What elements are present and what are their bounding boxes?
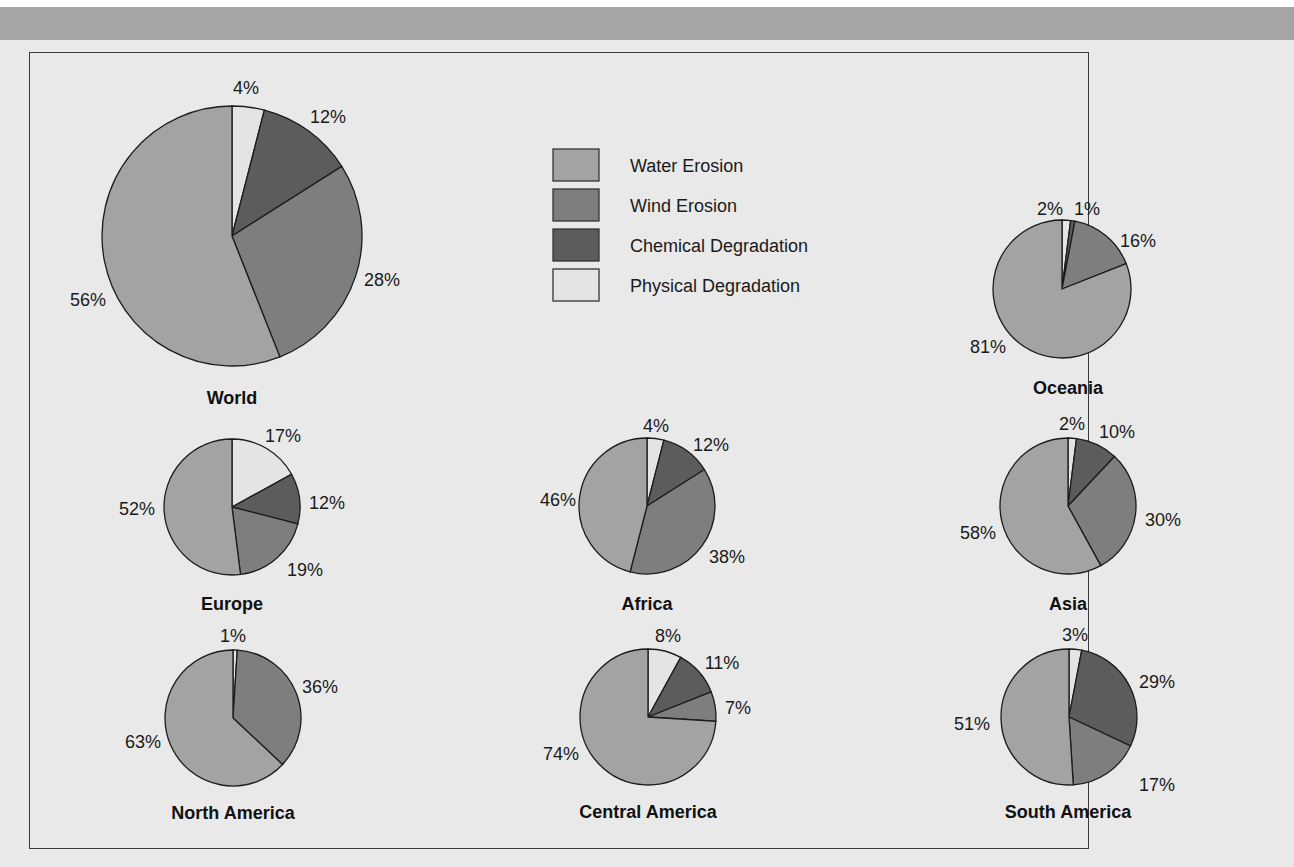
percent-label: 1% (1074, 199, 1100, 219)
pie-title: Europe (201, 594, 263, 614)
percent-label: 36% (302, 677, 338, 697)
percent-label: 38% (709, 547, 745, 567)
pie-title: Oceania (1033, 378, 1104, 398)
percent-label: 16% (1120, 231, 1156, 251)
legend-label: Physical Degradation (630, 276, 800, 296)
pie-charts-figure: 4%12%28%56%World2%1%16%81%Oceania17%12%1… (0, 0, 1294, 867)
pie-europe: 17%12%19%52%Europe (119, 426, 345, 614)
percent-label: 2% (1059, 414, 1085, 434)
pie-title: Asia (1049, 594, 1088, 614)
percent-label: 51% (954, 714, 990, 734)
percent-label: 4% (233, 78, 259, 98)
legend-swatch-physical-degradation (553, 269, 599, 301)
legend-swatch-wind-erosion (553, 189, 599, 221)
pie-north-america: 1%36%63%North America (125, 626, 338, 823)
percent-label: 12% (310, 107, 346, 127)
pie-central-america: 8%11%7%74%Central America (543, 626, 751, 822)
percent-label: 56% (70, 290, 106, 310)
percent-label: 3% (1062, 625, 1088, 645)
legend-label: Chemical Degradation (630, 236, 808, 256)
legend-swatch-water-erosion (553, 149, 599, 181)
slice-water-erosion (1001, 649, 1073, 785)
percent-label: 46% (540, 490, 576, 510)
percent-label: 30% (1145, 510, 1181, 530)
percent-label: 8% (655, 626, 681, 646)
percent-label: 81% (970, 337, 1006, 357)
percent-label: 17% (1139, 775, 1175, 795)
percent-label: 74% (543, 744, 579, 764)
legend: Water ErosionWind ErosionChemical Degrad… (553, 149, 808, 301)
percent-label: 7% (725, 698, 751, 718)
pie-oceania: 2%1%16%81%Oceania (970, 199, 1156, 398)
percent-label: 2% (1037, 199, 1063, 219)
percent-label: 19% (287, 560, 323, 580)
pie-title: North America (171, 803, 295, 823)
percent-label: 12% (309, 493, 345, 513)
legend-label: Wind Erosion (630, 196, 737, 216)
pie-south-america: 3%29%17%51%South America (954, 625, 1175, 822)
pie-title: Central America (579, 802, 717, 822)
legend-swatch-chemical-degradation (553, 229, 599, 261)
percent-label: 10% (1099, 422, 1135, 442)
percent-label: 11% (705, 653, 740, 673)
legend-label: Water Erosion (630, 156, 743, 176)
percent-label: 4% (643, 416, 669, 436)
pie-title: South America (1005, 802, 1132, 822)
percent-label: 52% (119, 499, 155, 519)
pie-world: 4%12%28%56%World (70, 78, 400, 408)
percent-label: 28% (364, 270, 400, 290)
percent-label: 1% (220, 626, 246, 646)
pie-asia: 2%10%30%58%Asia (960, 414, 1181, 614)
percent-label: 29% (1139, 672, 1175, 692)
pie-africa: 4%12%38%46%Africa (540, 416, 745, 614)
slice-water-erosion (164, 439, 241, 575)
pie-title: Africa (621, 594, 673, 614)
percent-label: 17% (265, 426, 301, 446)
percent-label: 12% (693, 435, 729, 455)
percent-label: 63% (125, 732, 161, 752)
percent-label: 58% (960, 523, 996, 543)
pie-title: World (207, 388, 258, 408)
